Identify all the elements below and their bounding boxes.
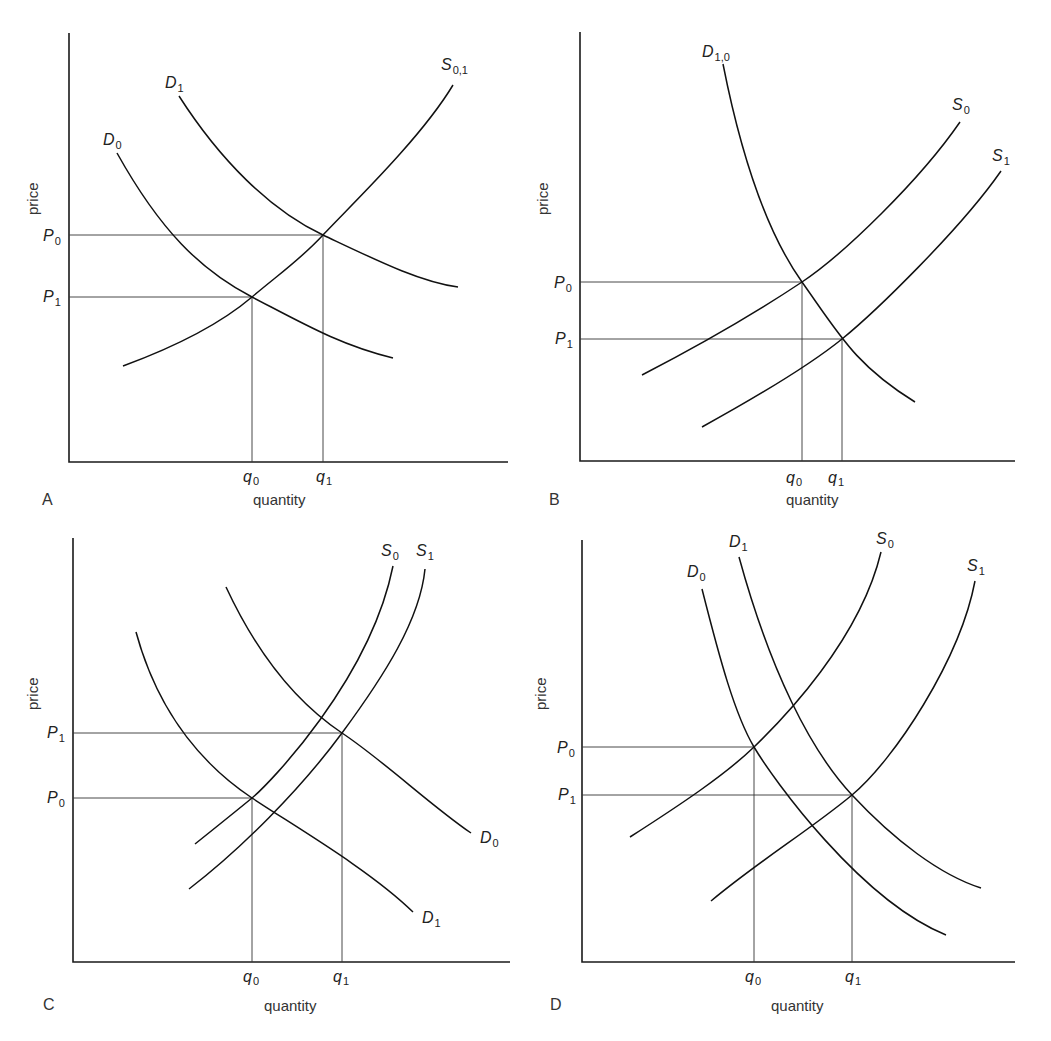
x-axis-label: quantity	[771, 997, 824, 1014]
x-axis-label: quantity	[253, 491, 306, 508]
curve-label-s1: S1	[416, 542, 434, 562]
curve-label-d1: D1	[422, 909, 441, 929]
panel-letter: A	[42, 491, 53, 508]
price-label-p0: P0	[43, 227, 61, 247]
curve-label-d1: D1	[729, 533, 748, 553]
supply-curve-s1	[189, 569, 425, 889]
curve-label-s01: S0,1	[441, 56, 468, 76]
x-axis-label: quantity	[264, 997, 317, 1014]
curve-label-d0: D0	[480, 829, 499, 849]
qty-label-q0: q0	[243, 968, 259, 987]
y-axis-label: price	[24, 677, 41, 710]
panel-letter: C	[43, 996, 55, 1013]
demand-curve-d0	[702, 589, 946, 935]
demand-curve-d10	[723, 64, 915, 402]
curve-label-d1: D1	[165, 74, 184, 94]
price-label-p1: P1	[558, 786, 576, 806]
panel-a: price quantity A P0 P1 q0 q1 D0 D1 S0,1	[24, 33, 508, 508]
curve-label-d0: D0	[687, 563, 706, 583]
supply-demand-figure: price quantity A P0 P1 q0 q1 D0 D1 S0,1 …	[0, 0, 1051, 1041]
qty-label-q0: q0	[745, 968, 761, 987]
supply-curve-s0	[642, 122, 960, 375]
curve-label-d0: D0	[103, 131, 122, 151]
qty-label-q1: q1	[316, 468, 332, 487]
demand-curve-d0	[226, 587, 471, 833]
price-label-p1: P1	[47, 724, 65, 744]
curve-label-s1: S1	[967, 557, 985, 577]
axes	[582, 540, 1015, 962]
price-label-p1: P1	[555, 330, 573, 350]
supply-curve-s0	[195, 566, 393, 844]
demand-curve-d1	[739, 557, 981, 888]
supply-curve-s0	[630, 552, 881, 837]
axes	[73, 538, 510, 962]
qty-label-q1: q1	[845, 968, 861, 987]
panel-c: price quantity C P1 P0 q0 q1 S0 S1 D0 D1	[24, 538, 510, 1014]
panel-b: price quantity B P0 P1 q0 q1 D1,0 S0 S1	[534, 32, 1015, 508]
demand-curve-d1	[136, 632, 413, 912]
supply-curve-s1	[702, 171, 1001, 427]
curve-label-s0: S0	[876, 530, 894, 550]
price-label-p0: P0	[554, 274, 572, 294]
y-axis-label: price	[24, 182, 41, 215]
axes	[69, 33, 508, 462]
curve-label-s1: S1	[992, 147, 1010, 167]
price-label-p1: P1	[43, 288, 61, 308]
panel-d: price quantity D P0 P1 q0 q1 D0 D1 S0 S1	[532, 530, 1015, 1014]
demand-curve-d0	[117, 153, 393, 358]
panel-letter: B	[549, 491, 560, 508]
panel-letter: D	[550, 996, 562, 1013]
curve-label-d10: D1,0	[702, 43, 730, 63]
curve-label-s0: S0	[952, 96, 970, 116]
y-axis-label: price	[532, 677, 549, 710]
qty-label-q0: q0	[243, 468, 259, 487]
demand-curve-d1	[179, 96, 458, 287]
supply-curve-s01	[123, 85, 453, 366]
qty-label-q0: q0	[786, 469, 802, 488]
curve-label-s0: S0	[381, 542, 399, 562]
qty-label-q1: q1	[333, 968, 349, 987]
qty-label-q1: q1	[828, 469, 844, 488]
price-label-p0: P0	[557, 739, 575, 759]
y-axis-label: price	[534, 182, 551, 215]
axes	[580, 32, 1015, 461]
x-axis-label: quantity	[786, 491, 839, 508]
price-label-p0: P0	[47, 789, 65, 809]
